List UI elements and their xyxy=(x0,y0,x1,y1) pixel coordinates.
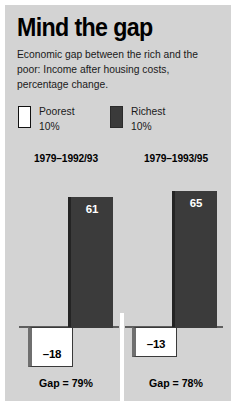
legend-label-richest-line1: Richest xyxy=(131,106,165,117)
legend-label-richest-line2: 10% xyxy=(131,120,165,135)
bar-richest-1979-1992-93: 61 xyxy=(68,197,113,328)
legend-label-poorest-line2: 10% xyxy=(39,120,75,135)
column-header-right: 1979–1993/95 xyxy=(121,153,231,164)
gap-note-left: Gap = 79% xyxy=(11,377,121,389)
bar-value-label: –18 xyxy=(32,348,72,360)
column-header-left: 1979–1992/93 xyxy=(11,153,121,164)
white-swatch-icon xyxy=(18,106,31,128)
bar-value-label: 61 xyxy=(71,203,113,215)
legend-label-poorest-line1: Poorest xyxy=(39,106,75,117)
infographic-panel: Mind the gap Economic gap between the ri… xyxy=(5,5,231,401)
legend-label-poorest: Poorest 10% xyxy=(39,105,75,134)
legend-label-richest: Richest 10% xyxy=(131,105,165,134)
bar-richest-1979-1993-95: 65 xyxy=(172,191,217,328)
subtitle-text: Economic gap between the rich and the po… xyxy=(17,47,223,93)
gap-note-right: Gap = 78% xyxy=(121,377,231,389)
bar-poorest-1979-1992-93: –18 xyxy=(28,327,73,367)
page-title: Mind the gap xyxy=(17,13,153,42)
dark-swatch-icon xyxy=(110,106,123,128)
bar-poorest-1979-1993-95: –13 xyxy=(132,327,177,357)
chart-area: 61 –18 65 –13 Gap = 79% Gap = 78% xyxy=(5,171,231,401)
bar-value-label: 65 xyxy=(175,197,217,209)
bar-value-label: –13 xyxy=(136,338,176,350)
